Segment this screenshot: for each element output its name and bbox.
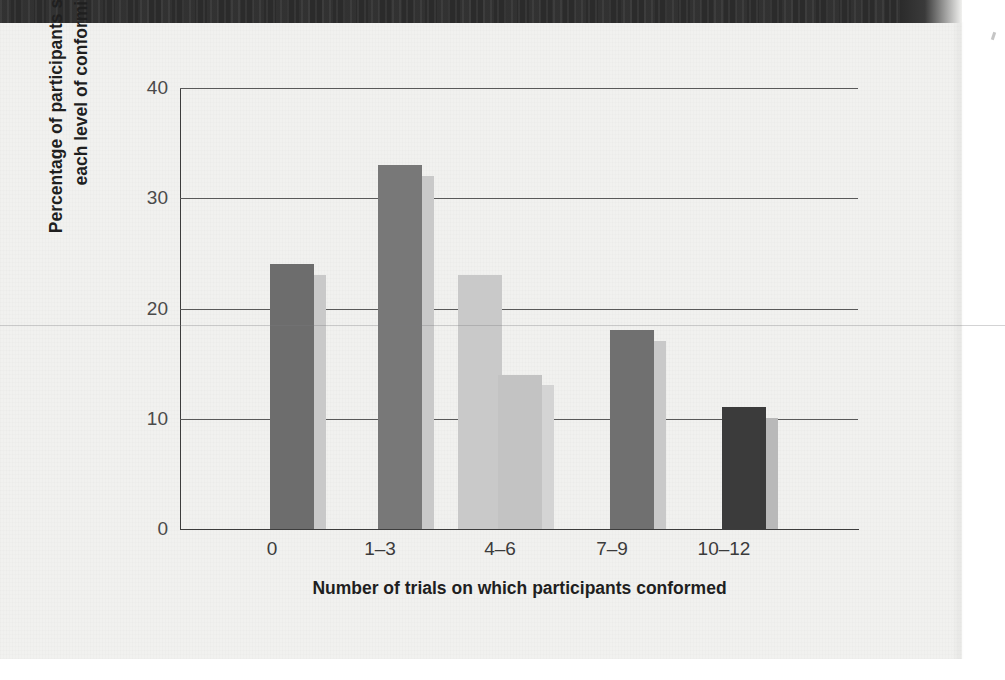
figure-screenshot: 40 30 20 10 0 — [0, 0, 1005, 680]
y-tick-label-0: 0 — [128, 518, 168, 540]
x-tick-label-3: 7–9 — [552, 538, 672, 560]
bar-shadow-cat-1 — [422, 176, 434, 529]
bar-shadow-0 — [458, 275, 502, 529]
x-tick-label-1: 1–3 — [320, 538, 440, 560]
bar-category-0 — [270, 264, 314, 529]
x-axis-title: Number of trials on which participants c… — [180, 578, 859, 599]
x-tick-label-0: 0 — [212, 538, 332, 560]
bar-chart: 40 30 20 10 0 — [0, 0, 1005, 680]
x-tick-label-2: 4–6 — [440, 538, 560, 560]
gridline-30 — [180, 198, 858, 199]
x-axis-line — [180, 529, 859, 530]
scan-artifact-line — [0, 325, 1005, 326]
bar-shadow-cat-2 — [542, 385, 554, 529]
y-axis-title: Percentage of participants showing each … — [44, 0, 95, 250]
y-tick-label-40: 40 — [128, 77, 168, 99]
y-tick-label-10: 10 — [128, 408, 168, 430]
bar-category-4 — [722, 407, 766, 529]
y-tick-label-20: 20 — [128, 298, 168, 320]
bar-category-1 — [378, 165, 422, 529]
bar-shadow-cat-4 — [766, 418, 778, 529]
bar-category-3 — [610, 330, 654, 529]
y-tick-label-30: 30 — [128, 187, 168, 209]
x-tick-label-4: 10–12 — [664, 538, 784, 560]
bar-category-2 — [498, 375, 542, 529]
bar-shadow-cat-0 — [314, 275, 326, 529]
gridline-40 — [180, 88, 858, 89]
plot-area — [180, 88, 858, 529]
bar-shadow-cat-3 — [654, 341, 666, 529]
